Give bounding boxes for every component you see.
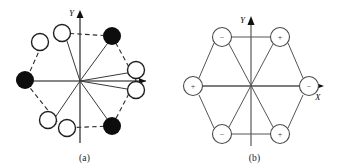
- node-bottom-right: [103, 117, 121, 135]
- diag-to-top-right: [80, 40, 110, 81]
- node-right: −: [300, 77, 319, 96]
- node-right-upper: [128, 62, 145, 79]
- node-top-left-inner: [54, 25, 71, 42]
- node-bottom-right-sign: +: [278, 130, 283, 139]
- hex-edge-lower-left: [199, 95, 214, 128]
- panel-a-drawing: X Y: [0, 0, 169, 167]
- y-axis-arrowhead: [248, 16, 255, 25]
- hex-edge-lower-right: [288, 95, 303, 128]
- node-top-left-sign: −: [220, 33, 225, 42]
- diag-to-bottom-right: [80, 81, 110, 123]
- node-bottom-left: −: [213, 125, 232, 144]
- axes-group-a: X Y: [16, 8, 146, 143]
- node-left: +: [184, 77, 203, 96]
- hex-edge-upper-left: [199, 43, 214, 78]
- node-top-right: +: [271, 28, 290, 47]
- figure-panel-b: X Y −: [170, 0, 339, 167]
- diag-to-right-upper: [80, 72, 133, 81]
- y-axis-label: Y: [240, 15, 246, 25]
- node-top-right: [103, 27, 121, 45]
- node-bottom-left-sign: −: [220, 130, 225, 139]
- panel-b-caption: (b): [170, 153, 339, 163]
- panel-b-drawing: X Y −: [170, 0, 339, 167]
- node-right-sign: −: [307, 82, 312, 91]
- node-bottom-right: +: [271, 125, 290, 144]
- node-top-left: −: [213, 28, 232, 47]
- node-left: [16, 71, 34, 89]
- figure-root: X Y: [0, 0, 339, 167]
- node-right-lower: [128, 82, 145, 99]
- diag-to-top-left: [66, 38, 80, 81]
- diag-to-right-lower: [80, 81, 133, 90]
- node-bottom-left-inner: [59, 120, 76, 137]
- hex-edge-upper-right: [288, 43, 303, 78]
- node-left-sign: +: [191, 82, 196, 91]
- node-bottom-left-outer: [40, 112, 57, 129]
- node-top-left-outer: [32, 34, 49, 51]
- y-axis-label: Y: [69, 8, 75, 18]
- figure-panel-a: X Y: [0, 0, 169, 167]
- node-top-right-sign: +: [278, 33, 283, 42]
- y-axis-arrowhead: [77, 10, 84, 18]
- panel-a-caption: (a): [0, 153, 169, 163]
